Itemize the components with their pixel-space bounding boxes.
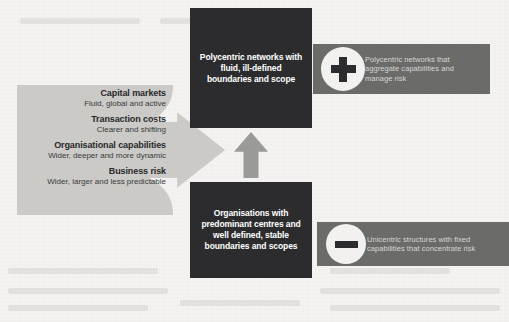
concept-label: Polycentric networks with fluid, ill-def… [190,52,312,85]
minus-glyph [335,241,358,248]
concept-label: Organisations with predominant centres a… [190,208,312,252]
concept-box-unicentric: Organisations with predominant centres a… [190,182,312,278]
plus-glyph [331,57,356,82]
driver-title: Transaction costs [20,114,166,125]
arrow-up-icon [234,132,268,178]
outcome-text: Polycentric networks that aggregate capa… [365,55,483,84]
driver-title: Business risk [20,166,166,177]
driver-subtitle: Clearer and shifting [20,125,166,135]
plus-icon [321,47,365,91]
ghost-text-line [8,288,168,294]
driver-subtitle: Wider, deeper and more dynamic [20,151,166,161]
drivers-list: Capital markets Fluid, global and active… [20,88,166,192]
diagram-canvas: Capital markets Fluid, global and active… [0,0,509,322]
driver-subtitle: Fluid, global and active [20,99,166,109]
ghost-text-line [8,268,158,274]
ghost-text-line [180,300,300,306]
driver-item-organisational-capabilities: Organisational capabilities Wider, deepe… [20,140,166,161]
driver-title: Capital markets [20,88,166,99]
ghost-text-line [320,288,500,294]
driver-item-transaction-costs: Transaction costs Clearer and shifting [20,114,166,135]
driver-item-capital-markets: Capital markets Fluid, global and active [20,88,166,109]
ghost-text-line [20,18,140,24]
driver-title: Organisational capabilities [20,140,166,151]
driver-subtitle: Wider, larger and less predictable [20,177,166,187]
ghost-text-line [330,305,500,311]
driver-item-business-risk: Business risk Wider, larger and less pre… [20,166,166,187]
ghost-text-line [8,305,148,311]
concept-box-polycentric: Polycentric networks with fluid, ill-def… [190,8,312,128]
ghost-text-line [330,268,450,274]
minus-icon [326,224,366,264]
outcome-text: Unicentric structures with fixed capabil… [367,235,485,254]
